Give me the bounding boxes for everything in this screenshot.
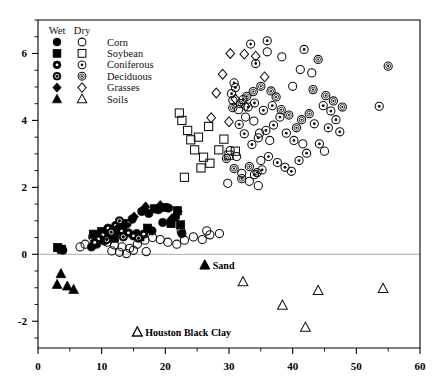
data-point [189,233,197,241]
data-point [301,322,311,331]
annotation-marker [200,260,210,269]
data-point [253,169,261,177]
data-point [273,158,281,166]
data-point [56,269,66,278]
annotation-marker [132,327,142,336]
data-point [194,133,202,141]
legend-marker-dry [78,83,86,92]
data-point [300,45,308,53]
x-tick-label: 50 [351,360,363,372]
legend-marker-wet [53,38,61,46]
data-point [180,236,188,244]
data-point [384,62,392,70]
legend-label: Soybean [107,48,144,59]
data-point [187,136,195,144]
data-point [278,53,286,61]
data-point [305,110,313,118]
annotation-label: Sand [213,260,235,271]
data-point [299,140,307,148]
legend-marker-dry [78,61,86,69]
data-point [314,55,322,63]
legend-marker-dry [78,50,86,58]
data-point [207,113,216,123]
data-point [289,82,297,90]
data-point [245,162,253,170]
legend-marker-dry [78,72,86,80]
data-point [378,283,388,292]
data-point [319,102,327,110]
data-point [278,300,288,309]
scatter-plot: 0102030405060-20246SandHouston Black Cla… [0,0,442,386]
legend-label: Coniferous [107,59,154,70]
data-point [240,49,249,59]
y-tick-label: -2 [18,315,28,327]
data-point [226,49,235,59]
data-point [238,277,248,286]
annotation-label: Houston Black Clay [145,327,231,338]
x-tick-label: 40 [287,360,299,372]
legend-marker-wet [53,83,61,92]
data-point [218,69,227,79]
data-point [52,279,62,288]
x-tick-label: 10 [96,360,108,372]
data-point [296,65,304,73]
legend-marker-wet [53,50,61,58]
x-tick-label: 20 [160,360,172,372]
data-point [197,164,205,172]
data-point [254,134,262,142]
data-point [238,175,246,183]
data-point [107,228,115,236]
data-point [266,136,274,144]
data-point [241,113,249,121]
data-point [277,106,285,114]
data-point [199,153,207,161]
legend-marker-wet [53,61,61,69]
data-point [231,84,239,92]
data-point [259,106,267,114]
data-point [324,124,332,132]
data-point [336,128,344,136]
data-point [313,285,323,294]
data-point [206,159,214,167]
data-point [257,156,265,164]
data-point [57,245,65,253]
data-point [198,235,206,243]
data-point [230,165,238,173]
data-point [184,126,192,134]
plot-frame [38,20,420,348]
data-point [264,152,272,160]
data-point [263,48,271,56]
data-point [215,146,223,154]
data-point [225,117,234,127]
data-point [322,92,330,100]
data-point [285,111,293,119]
legend-label: Grasses [107,82,140,93]
legend-label: Deciduous [107,71,152,82]
data-point [224,179,232,187]
data-point [282,129,290,137]
data-point [267,87,275,95]
data-point [287,167,295,175]
data-point [215,229,223,237]
data-point [220,135,228,143]
data-point [310,120,318,128]
data-point [375,102,383,110]
data-point [257,82,265,90]
y-tick-label: 0 [22,248,28,260]
y-tick-label: 6 [22,47,28,59]
y-tick-label: 4 [22,114,28,126]
data-point [132,327,142,336]
data-point [269,121,277,129]
data-point [250,99,258,107]
data-point [332,116,340,124]
legend-marker-wet [53,72,61,80]
data-point [290,136,298,144]
data-point [292,124,300,132]
data-point [240,130,248,138]
data-point [309,86,317,94]
data-point [247,40,255,48]
data-point [276,113,284,121]
x-tick-label: 30 [224,360,236,372]
data-point [173,240,181,248]
chart-root: 0102030405060-20246SandHouston Black Cla… [0,0,442,386]
